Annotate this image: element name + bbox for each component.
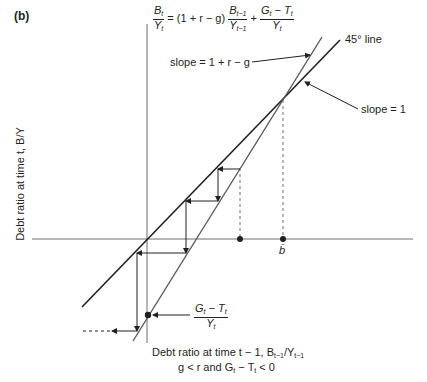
x-axis-label: Debt ratio at time t − 1, Bt−1/Yt−1 (152, 346, 304, 359)
forty-five-line (82, 40, 340, 307)
forty-five-line-label: 45° line (345, 33, 382, 45)
y-axis-label: Debt ratio at time t, B/Y (14, 104, 26, 264)
equation: BtYt = (1 + r − g) Bt−1Yt−1 + Gt − TtYt (153, 5, 294, 34)
initial-point-dot (237, 236, 243, 242)
unit-slope-label: slope = 1 (361, 103, 406, 115)
steep-slope-label: slope = 1 + r − g (170, 56, 250, 68)
steady-state-dot (280, 236, 286, 242)
condition-label: g < r and Gt − Tt < 0 (178, 361, 275, 374)
intercept-label: Gt − TtYt (194, 303, 228, 332)
intercept-dot (145, 312, 151, 318)
steep-line (133, 37, 322, 341)
panel-label: (b) (14, 9, 29, 23)
unit-slope-pointer (305, 82, 358, 109)
steady-state-label: b̄ (279, 244, 285, 256)
steep-slope-pointer (252, 55, 310, 62)
